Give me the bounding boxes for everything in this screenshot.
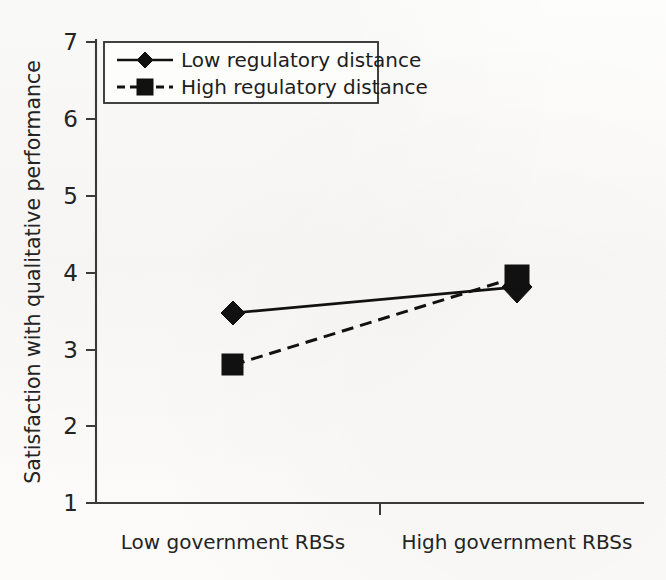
y-tick-group xyxy=(86,42,96,503)
diamond-marker-low-left xyxy=(221,301,245,325)
series-low-regulatory-distance xyxy=(221,271,532,325)
y-axis-title: Satisfaction with qualitative performanc… xyxy=(21,60,45,484)
y-tick-label-3: 3 xyxy=(63,337,78,363)
axis-group xyxy=(96,40,643,503)
legend-label-high-regulatory-distance: High regulatory distance xyxy=(181,75,428,99)
y-tick-label-5: 5 xyxy=(63,183,78,209)
y-tick-label-1: 1 xyxy=(63,490,78,516)
legend: Low regulatory distance High regulatory … xyxy=(104,42,428,103)
legend-label-low-regulatory-distance: Low regulatory distance xyxy=(181,48,421,72)
series-high-regulatory-distance-line xyxy=(233,277,517,365)
x-tick-label-low-government-rbss: Low government RBSs xyxy=(121,530,345,554)
x-tick-label-group: Low government RBSs High government RBSs xyxy=(121,530,633,554)
series-high-regulatory-distance xyxy=(222,265,529,375)
chart-figure: 7 6 5 4 3 2 1 Low government RBSs High g… xyxy=(0,0,666,580)
y-tick-label-7: 7 xyxy=(63,29,78,55)
square-marker-icon xyxy=(137,79,153,95)
y-tick-label-group: 7 6 5 4 3 2 1 xyxy=(63,29,78,516)
square-marker-high-left xyxy=(222,354,243,375)
y-tick-label-2: 2 xyxy=(63,413,78,439)
interaction-plot: 7 6 5 4 3 2 1 Low government RBSs High g… xyxy=(0,0,666,580)
square-marker-high-right xyxy=(505,265,529,289)
y-tick-label-4: 4 xyxy=(63,260,78,286)
y-tick-label-6: 6 xyxy=(63,106,78,132)
x-tick-label-high-government-rbss: High government RBSs xyxy=(402,530,633,554)
